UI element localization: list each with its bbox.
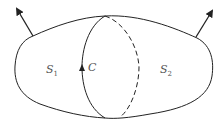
curve-c-back [105, 16, 139, 117]
normal-arrow-right-icon [196, 11, 212, 37]
surface-diagram: S1 C S2 [0, 0, 224, 124]
label-curve-c: C [88, 61, 97, 74]
curve-direction-arrow-icon [79, 64, 85, 71]
label-s2: S2 [160, 63, 172, 78]
outer-surface-boundary [15, 16, 213, 119]
normal-arrow-left-icon [17, 9, 33, 36]
label-s1: S1 [46, 63, 58, 78]
